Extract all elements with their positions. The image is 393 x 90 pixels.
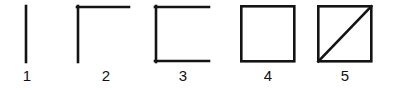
figure-2-corner-shape (72, 4, 132, 64)
figure-2-label: 2 (96, 68, 116, 83)
figure-3-open-square (150, 4, 212, 64)
figure-4-closed-square (236, 4, 298, 64)
figure-row: 1 2 3 4 5 (0, 0, 393, 90)
figure-4-label: 4 (258, 68, 278, 83)
figure-sequence-canvas: 1 2 3 4 5 (0, 0, 393, 90)
figure-5-label: 5 (335, 68, 355, 83)
figure-5-square-with-diagonal (313, 4, 375, 64)
figure-3-label: 3 (173, 68, 193, 83)
figure-1-vertical-line (20, 4, 80, 64)
figure-1-label: 1 (17, 68, 37, 83)
